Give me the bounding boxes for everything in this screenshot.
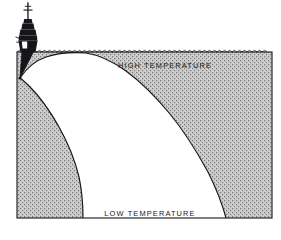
- low-temperature-label: LOW TEMPERATURE: [104, 209, 195, 218]
- ship-hull: [18, 40, 37, 52]
- ship-yardarm-top: [25, 6, 31, 7]
- ship-masthead-icon: [27, 1, 28, 3]
- high-temperature-label: HIGH TEMPERATURE: [118, 61, 212, 70]
- water-column: [17, 52, 272, 218]
- diagram-canvas: HIGH TEMPERATURE LOW TEMPERATURE: [0, 0, 281, 240]
- ship-bridge-structure: [21, 24, 34, 30]
- ship-yardarm-upper: [24, 10, 33, 11]
- ship-superstructure: [19, 30, 36, 36]
- ship-mast: [27, 3, 28, 19]
- ship-hull-highlight: [22, 41, 27, 48]
- ship-director-tower: [23, 19, 32, 24]
- sonar-propagation-figure: HIGH TEMPERATURE LOW TEMPERATURE: [0, 0, 281, 240]
- sonar-source-point: [19, 77, 22, 80]
